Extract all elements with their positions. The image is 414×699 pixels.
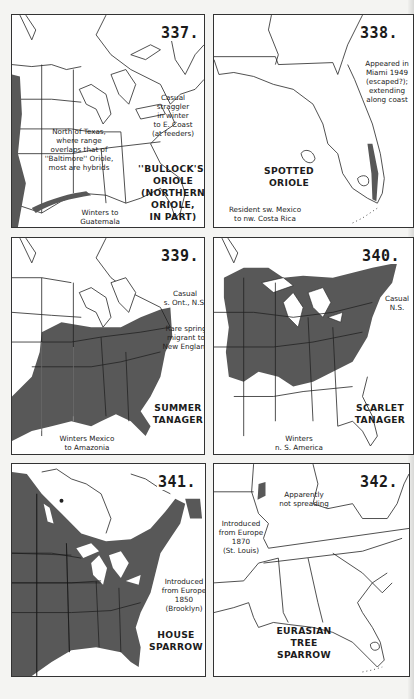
map-note: CasualN.S. xyxy=(379,294,414,312)
map-number: 340. xyxy=(361,248,401,264)
map-note: Introducedfrom Europe1850(Brooklyn) xyxy=(154,577,206,613)
map-panel-339: 339. Casuals. Ont., N.S. Rare springmigr… xyxy=(11,237,205,455)
species-title: SPOTTEDORIOLE xyxy=(254,165,324,189)
species-title: ''BULLOCK'S''ORIOLE(NORTHERNORIOLE,IN PA… xyxy=(138,163,205,223)
map-number: 342. xyxy=(359,474,399,490)
map-note: North of Texas,where rangeoverlaps that … xyxy=(34,127,124,172)
range-shading xyxy=(367,144,378,201)
species-title: SCARLETTANAGER xyxy=(350,402,410,426)
map-note: Winters toGuatemala xyxy=(70,208,130,226)
map-note: Casualstragglerin winterto E. Coast(at f… xyxy=(148,93,198,138)
range-shading xyxy=(12,74,26,226)
map-number: 341. xyxy=(157,474,197,490)
range-map-florida xyxy=(214,15,413,227)
map-note: Introducedfrom Europe1870(St. Louis) xyxy=(216,519,266,555)
map-panel-342: 342. Apparentlynot spreading Introducedf… xyxy=(213,463,410,677)
map-panel-341: 341. Introducedfrom Europe1850(Brooklyn)… xyxy=(11,463,206,677)
map-panel-337: 337. Casualstragglerin winterto E. Coast… xyxy=(11,14,205,228)
map-note: Rare springmigrant toNew England xyxy=(158,324,205,351)
map-panel-340: 340. CasualN.S. Wintersn. S. America SCA… xyxy=(213,237,414,455)
map-number: 339. xyxy=(160,248,200,264)
map-note: Wintersn. S. America xyxy=(269,434,329,452)
species-title: EURASIANTREESPARROW xyxy=(269,625,339,661)
range-shading xyxy=(258,482,266,500)
map-note: Winters Mexicoto Amazonia xyxy=(52,434,122,452)
map-note: Apparentlynot spreading xyxy=(274,490,334,508)
map-note: Resident sw. Mexicoto nw. Costa Rica xyxy=(220,205,310,223)
species-title: HOUSESPARROW xyxy=(146,629,206,653)
map-number: 337. xyxy=(160,25,200,41)
map-note: Appeared inMiami 1949(escaped?);extendin… xyxy=(359,59,414,104)
map-number: 338. xyxy=(359,25,399,41)
species-title: SUMMERTANAGER xyxy=(148,402,205,426)
map-note: Casuals. Ont., N.S. xyxy=(160,289,205,307)
map-panel-338: 338. Appeared inMiami 1949(escaped?);ext… xyxy=(213,14,414,228)
